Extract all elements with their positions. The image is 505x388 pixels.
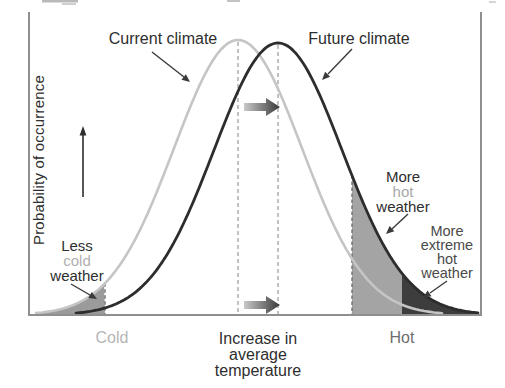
less-cold-weather-label: Less cold weather [49, 237, 103, 284]
current-climate-pointer-arrow [152, 52, 190, 82]
caption-line1: Increase in [219, 330, 297, 347]
y-axis-up-arrow-icon [80, 126, 87, 197]
caption-line2: average [229, 346, 287, 363]
mean-shift-arrow-icon [244, 98, 280, 116]
x-tick-hot: Hot [390, 329, 415, 346]
more-extreme-line4: weather [420, 265, 473, 281]
y-axis-label: Probability of occurrence [30, 75, 47, 245]
more-hot-line3: weather [375, 198, 429, 215]
less-cold-line3: weather [49, 267, 103, 284]
more-hot-weather-label: More hot weather [375, 168, 429, 215]
cropped-caption-remnant [42, 0, 496, 5]
x-tick-cold: Cold [96, 329, 129, 346]
climate-shift-diagram: Current climate Future climate Probabili… [0, 0, 505, 388]
climate-distribution-figure: Current climate Future climate Probabili… [0, 0, 505, 388]
caption-line3: temperature [215, 362, 301, 379]
mean-shift-arrow-bottom-icon [244, 296, 280, 314]
more-extreme-pointer-arrow [423, 281, 447, 298]
less-cold-pointer-arrow [71, 284, 97, 299]
future-climate-label: Future climate [308, 30, 409, 47]
future-climate-pointer-arrow [322, 49, 352, 80]
more-hot-pointer-arrow [386, 214, 408, 234]
more-extreme-hot-weather-label: More extreme hot weather [420, 223, 473, 281]
current-climate-label: Current climate [109, 30, 218, 47]
increase-average-temperature-caption: Increase in average temperature [215, 330, 301, 379]
